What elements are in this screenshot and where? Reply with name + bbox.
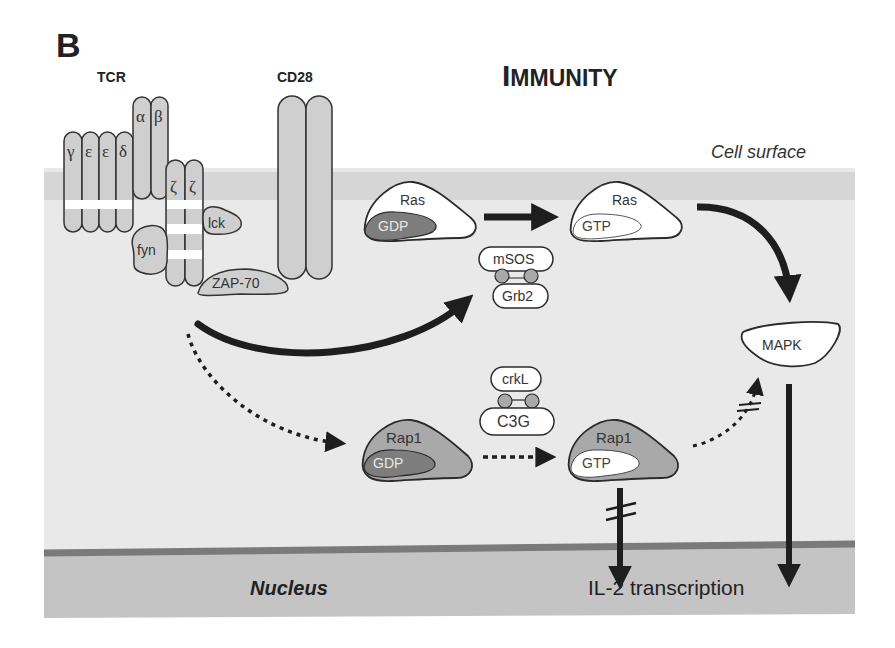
nucleus-label: Nucleus (250, 577, 328, 599)
svg-text:MAPK: MAPK (762, 337, 802, 353)
svg-text:Grb2: Grb2 (502, 288, 533, 304)
svg-text:Ras: Ras (400, 192, 425, 208)
sh3-domain-2 (524, 269, 538, 283)
svg-text:GDP: GDP (373, 455, 403, 471)
svg-text:crkL: crkL (502, 371, 529, 387)
tcr-zeta-label-2: ζ (189, 177, 196, 196)
tcr-label: TCR (97, 69, 126, 85)
svg-text:ZAP-70: ZAP-70 (212, 275, 260, 291)
svg-text:Ras: Ras (612, 192, 637, 208)
diagram-title: IMMUNITY (502, 59, 618, 92)
tcr-epsilon-label-1: ε (85, 142, 92, 161)
svg-text:fyn: fyn (137, 242, 156, 258)
svg-text:GTP: GTP (582, 455, 611, 471)
svg-text:Rap1: Rap1 (596, 429, 632, 446)
cd28-label: CD28 (277, 69, 313, 85)
title-rest: MMUNITY (510, 65, 617, 91)
svg-text:GTP: GTP (582, 218, 611, 234)
immunity-signaling-diagram: B IMMUNITY TCR CD28 Cell surface γ ε ε δ… (0, 0, 895, 648)
il2-transcription-label: IL-2 transcription (588, 576, 744, 599)
svg-text:C3G: C3G (497, 413, 530, 430)
cd28-receptor (278, 96, 332, 279)
sh3-domain-1 (495, 269, 509, 283)
sh3-domain-3 (498, 394, 512, 408)
svg-text:Rap1: Rap1 (386, 429, 422, 446)
tcr-beta-label: β (154, 107, 163, 126)
tcr-epsilon-label-2: ε (102, 142, 109, 161)
fyn-kinase: fyn (132, 226, 167, 275)
tcr-zeta-label-1: ζ (170, 177, 177, 196)
svg-text:mSOS: mSOS (493, 251, 534, 267)
tcr-alpha-label: α (136, 107, 145, 126)
title-first-letter: I (502, 59, 510, 92)
cell-surface-label: Cell surface (711, 142, 806, 162)
sh3-domain-4 (525, 394, 539, 408)
tcr-gamma-label: γ (66, 142, 75, 161)
cd28-chain-1 (278, 96, 306, 279)
tcr-delta-label: δ (119, 142, 127, 161)
panel-label: B (56, 26, 81, 64)
svg-text:lck: lck (208, 215, 226, 231)
svg-text:GDP: GDP (378, 218, 408, 234)
cd28-chain-2 (306, 96, 332, 279)
